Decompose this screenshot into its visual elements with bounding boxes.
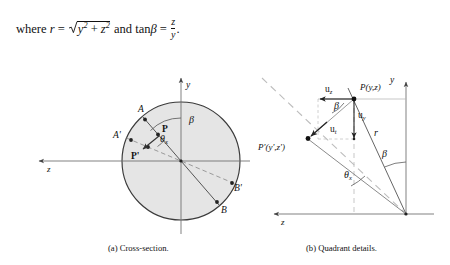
- label-u-t: ut: [330, 124, 337, 135]
- point-origin: [179, 159, 182, 162]
- label-A-prime: A': [112, 130, 122, 140]
- formula-equals: =: [58, 22, 65, 36]
- label-u-y-subscript: y: [362, 114, 366, 121]
- label-A: A: [137, 104, 144, 114]
- point-A: [143, 118, 147, 122]
- formula-tan: tan: [135, 22, 150, 36]
- label-beta-top: β: [333, 100, 339, 111]
- label-u-y: uy: [358, 110, 366, 121]
- point-origin: [404, 212, 407, 215]
- square-root: y2 + z2: [69, 21, 110, 36]
- arrow-u-t: [311, 122, 327, 136]
- axis-z-label: z: [46, 164, 51, 174]
- formula-equals-2: =: [160, 22, 167, 36]
- formula-and: and: [114, 22, 132, 36]
- fraction-numerator: z: [171, 17, 175, 28]
- figure-b-quadrant-details: y z: [252, 66, 448, 236]
- label-B: B: [221, 205, 227, 215]
- radical-vinculum: [77, 21, 110, 22]
- formula-line: where r = y2 + z2 and tanβ = z y .: [16, 18, 180, 42]
- label-beta-right: β: [381, 148, 387, 159]
- label-theta-x: θx: [344, 169, 352, 181]
- label-point-P-prime: P'(y',z'): [257, 142, 285, 152]
- formula-lead: where: [16, 22, 47, 36]
- caption-figure-a: (a) Cross-section.: [108, 243, 169, 253]
- radical-hook-icon: [69, 21, 78, 33]
- radial-line-OP: [348, 88, 406, 214]
- point-P: [352, 97, 357, 102]
- point-P-prime: [306, 136, 311, 141]
- label-u-t-subscript: t: [335, 128, 337, 135]
- formula-period: .: [176, 22, 179, 36]
- fraction-denominator: y: [171, 30, 175, 41]
- label-theta-x-subscript: x: [348, 174, 352, 181]
- formula-beta: β: [150, 22, 156, 36]
- angle-arc-beta-right: [385, 162, 407, 167]
- radial-line-OPprime: [308, 139, 406, 214]
- point-B: [215, 200, 219, 204]
- label-u-z: uz: [325, 84, 333, 95]
- point-A-prime: [129, 138, 133, 142]
- radicand-plus: +: [91, 22, 98, 36]
- label-u-z-subscript: z: [329, 88, 333, 95]
- axis-y-label: y: [389, 75, 395, 85]
- figure-a-cross-section: y z A P A': [25, 66, 240, 236]
- label-r: r: [374, 127, 378, 138]
- tick-u-y-end: [353, 138, 356, 141]
- label-P-prime: P': [131, 151, 139, 161]
- label-theta-x-subscript: x: [164, 138, 168, 145]
- axis-y-label: y: [185, 80, 191, 90]
- label-point-P: P(y,z): [359, 82, 381, 92]
- label-beta: β: [188, 114, 194, 125]
- caption-figure-b: (b) Quadrant details.: [306, 243, 377, 253]
- radicand-y-exponent: 2: [83, 21, 87, 30]
- formula-var-r: r: [50, 22, 55, 36]
- fraction-z-over-y: z y: [171, 17, 175, 41]
- label-B-prime: B': [234, 183, 243, 193]
- figure-page: where r = y2 + z2 and tanβ = z y .: [0, 0, 450, 265]
- radicand-z-exponent: 2: [106, 21, 110, 30]
- axis-z-label: z: [280, 217, 285, 227]
